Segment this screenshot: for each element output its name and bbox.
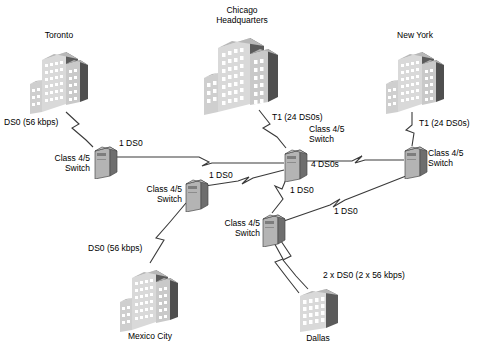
link-label-chicago-dallas: 1 DS0 (290, 185, 314, 195)
link-chicago-dallas (272, 177, 287, 213)
link-toronto-chicago (116, 157, 284, 166)
building-newyork (384, 42, 446, 114)
link-label-mexico-chicago: 1 DS0 (209, 170, 233, 180)
switch-newyork[interactable] (403, 143, 429, 179)
switch-label-mexico: Class 4/5 Switch (116, 184, 182, 204)
link-newyork-access (406, 112, 414, 146)
site-label-chicago: Chicago Headquarters (187, 5, 297, 25)
switch-label-newyork: Class 4/5 Switch (428, 148, 485, 168)
network-diagram: Toronto (0, 0, 485, 350)
building-toronto (28, 42, 90, 114)
link-label-chicago-newyork: 4 DS0s (311, 159, 339, 169)
switch-label-toronto: Class 4/5 Switch (26, 153, 90, 173)
switch-mexico[interactable] (184, 176, 210, 212)
site-label-toronto: Toronto (28, 30, 90, 40)
switch-toronto[interactable] (93, 143, 119, 179)
site-label-mexico: Mexico City (110, 331, 190, 341)
switch-label-chicago: Class 4/5 Switch (309, 124, 379, 144)
link-toronto-access (66, 112, 93, 147)
switch-dallas[interactable] (261, 211, 287, 247)
switch-label-dallas: Class 4/5 Switch (196, 218, 260, 238)
link-label-toronto-chicago: 1 DS0 (119, 138, 143, 148)
link-label-dallas-newyork: 1 DS0 (334, 206, 358, 216)
link-label-toronto-access: DS0 (56 kbps) (4, 117, 58, 127)
link-label-dallas-access: 2 x DS0 (2 x 56 kbps) (323, 270, 405, 280)
building-mexico (118, 262, 180, 332)
building-dallas (294, 286, 342, 334)
link-mexico-access (150, 203, 186, 263)
switch-chicago[interactable] (283, 146, 309, 182)
link-label-chicago-access: T1 (24 DS0s) (272, 112, 323, 122)
building-chicago (202, 28, 282, 116)
site-label-newyork: New York (384, 30, 446, 40)
site-label-dallas: Dallas (292, 333, 344, 343)
link-label-newyork-access: T1 (24 DS0s) (419, 118, 470, 128)
link-label-mexico-access: DS0 (56 kbps) (88, 243, 142, 253)
